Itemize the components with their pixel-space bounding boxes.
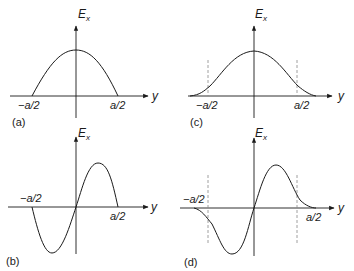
panel-a-caption: (a) xyxy=(12,117,25,128)
panel-b-curve xyxy=(32,163,118,253)
panel-d-ex-label: Ex xyxy=(255,127,267,142)
panel-c-pos-tick-label: a/2 xyxy=(294,100,309,111)
figure-drawing xyxy=(0,0,354,271)
field-profile-figure: Ex y −a/2 a/2 (a) Ex y −a/2 a/2 (c) Ex y… xyxy=(0,0,354,271)
panel-b-neg-tick-label: −a/2 xyxy=(20,193,42,204)
panel-b-y-label: y xyxy=(151,201,157,213)
panel-d-caption: (d) xyxy=(184,257,197,268)
panel-d-y-label: y xyxy=(338,202,344,214)
panel-c-y-label: y xyxy=(338,90,344,102)
panel-a-neg-tick-label: −a/2 xyxy=(18,100,40,111)
panel-a-y-label: y xyxy=(152,90,158,102)
panel-d-pos-tick-label: a/2 xyxy=(306,212,321,223)
panel-b-pos-tick-label: a/2 xyxy=(110,211,125,222)
panel-b-caption: (b) xyxy=(6,256,19,267)
panel-c-neg-tick-label: −a/2 xyxy=(196,100,218,111)
panel-d-curve xyxy=(194,165,316,254)
panel-d-neg-tick-label: −a/2 xyxy=(183,194,205,205)
panel-a-curve xyxy=(32,50,118,96)
panel-b-ex-label: Ex xyxy=(78,127,90,142)
panel-c-curve xyxy=(190,51,316,96)
panel-c-caption: (c) xyxy=(190,117,203,128)
panel-c-ex-label: Ex xyxy=(255,8,267,23)
panel-a-pos-tick-label: a/2 xyxy=(110,100,125,111)
panel-a-ex-label: Ex xyxy=(78,8,90,23)
